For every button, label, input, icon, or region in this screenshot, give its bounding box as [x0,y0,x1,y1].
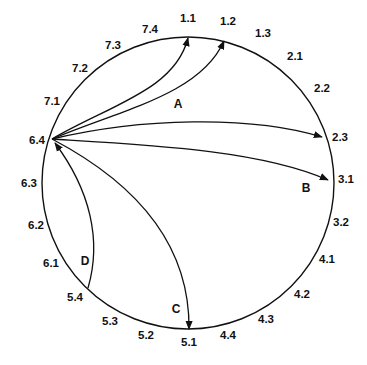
node-label: 6.3 [21,177,37,189]
node-label: 1.3 [255,27,271,39]
node-label: 1.1 [180,12,197,24]
node-label: 6.1 [43,257,60,269]
node-label: 5.1 [181,336,198,348]
node-label: 4.1 [319,253,336,265]
node-label: 7.3 [105,39,121,51]
edge-labels: A B C D [81,97,311,316]
node-label: 6.4 [29,134,46,146]
node-label: 2.1 [287,50,304,62]
node-label: 4.2 [294,288,310,300]
node-label: 5.4 [67,291,84,303]
node-label: 4.3 [258,313,274,325]
node-label: 5.2 [138,329,154,341]
edge-label-d: D [81,254,90,268]
node-label: 6.2 [28,219,44,231]
node-label: 7.2 [72,62,88,74]
node-label: 3.2 [333,216,349,228]
circular-diagram: 1.1 1.2 1.3 2.1 2.2 2.3 3.1 3.2 4.1 4.2 … [0,0,367,365]
node-label: 3.1 [338,173,355,185]
diagram-canvas: 1.1 1.2 1.3 2.1 2.2 2.3 3.1 3.2 4.1 4.2 … [0,0,367,365]
node-label: 4.4 [220,329,237,341]
node-label: 2.2 [314,82,330,94]
edge-6.4-to-2.3 [52,122,322,139]
edge-label-a: A [174,97,183,111]
edge-label-b: B [302,181,311,195]
edge-6.4-to-3.1 [52,139,328,180]
node-label: 2.3 [332,131,348,143]
edge-label-c: C [172,302,181,316]
node-label: 5.3 [102,315,118,327]
node-label: 7.1 [44,95,61,107]
node-label: 7.4 [142,23,159,35]
node-labels: 1.1 1.2 1.3 2.1 2.2 2.3 3.1 3.2 4.1 4.2 … [21,12,355,348]
node-label: 1.2 [220,15,236,27]
